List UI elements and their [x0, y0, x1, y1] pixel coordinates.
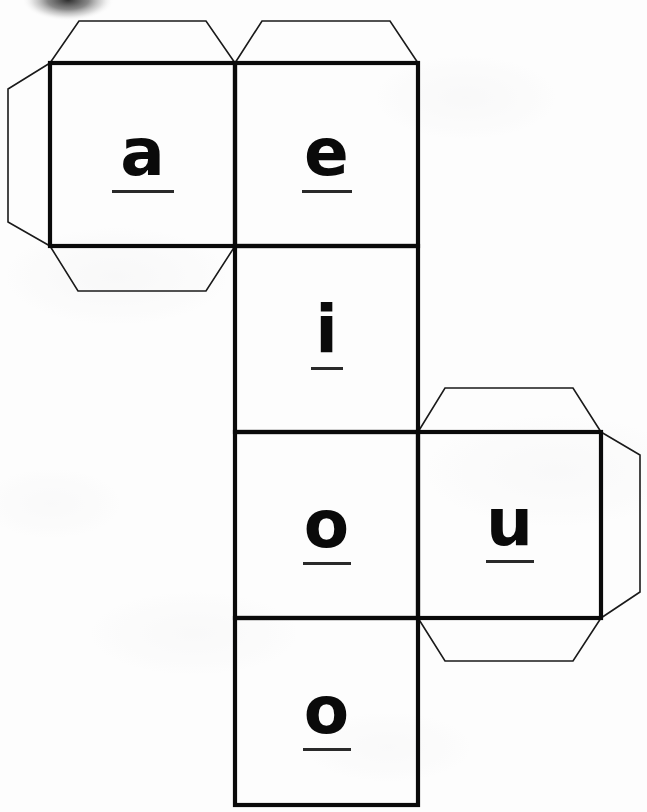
flap-top-u	[418, 388, 601, 432]
letter-e: e	[235, 120, 418, 186]
letter-o-upper: o	[235, 492, 418, 558]
worksheet-sheet: a e i o u o	[0, 0, 647, 812]
face-label-u: u	[418, 490, 601, 563]
scan-smudge	[22, 0, 114, 21]
flap-bottom-u	[418, 618, 601, 661]
face-label-o-lower: o	[235, 678, 418, 751]
flap-right-u	[601, 432, 640, 618]
letter-i: i	[235, 297, 418, 363]
flap-left-a	[8, 63, 50, 246]
flap-top-e	[235, 21, 418, 63]
flap-top-a	[50, 21, 235, 63]
letter-a: a	[50, 120, 235, 186]
letter-u: u	[418, 490, 601, 556]
face-label-e: e	[235, 120, 418, 193]
letter-o-lower: o	[235, 678, 418, 744]
face-label-o-upper: o	[235, 492, 418, 565]
face-label-i: i	[235, 297, 418, 370]
face-label-a: a	[50, 120, 235, 193]
flap-bottom-a	[50, 246, 235, 291]
